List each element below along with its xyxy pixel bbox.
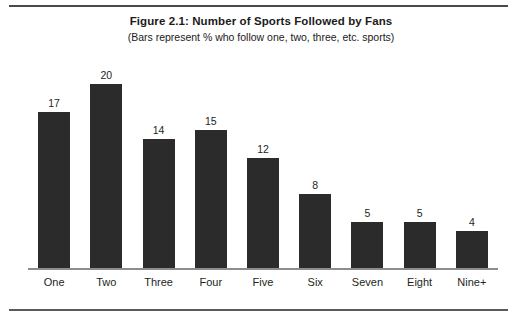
bar-value-label: 5 [341, 207, 393, 219]
category-label: Eight [394, 276, 446, 288]
bar-rect [456, 231, 488, 268]
bar-rect [90, 84, 122, 268]
bar-slot: 5 [394, 58, 446, 268]
category-label: One [28, 276, 80, 288]
bar-series: 17201415128554 [28, 58, 498, 268]
bottom-divider-rule [9, 309, 508, 311]
bar-rect [195, 130, 227, 268]
bar-rect [299, 194, 331, 268]
category-label: Seven [341, 276, 393, 288]
category-label: Four [185, 276, 237, 288]
top-divider-rule [9, 5, 508, 7]
bar-value-label: 17 [28, 97, 80, 109]
bar-value-label: 5 [394, 207, 446, 219]
bar-slot: 17 [28, 58, 80, 268]
title-block: Figure 2.1: Number of Sports Followed by… [0, 14, 522, 45]
x-axis-line [28, 268, 498, 270]
bar-value-label: 4 [446, 216, 498, 228]
bar-rect [404, 222, 436, 268]
category-label: Two [80, 276, 132, 288]
bar-value-label: 15 [185, 115, 237, 127]
bar-rect [351, 222, 383, 268]
bar-value-label: 14 [132, 124, 184, 136]
bar-slot: 15 [185, 58, 237, 268]
bar-slot: 5 [341, 58, 393, 268]
bar-slot: 8 [289, 58, 341, 268]
bar-value-label: 8 [289, 179, 341, 191]
bar-value-label: 20 [80, 69, 132, 81]
bar-rect [38, 112, 70, 268]
figure-title: Figure 2.1: Number of Sports Followed by… [0, 14, 522, 29]
bar-slot: 14 [132, 58, 184, 268]
bar-rect [247, 158, 279, 268]
bar-slot: 4 [446, 58, 498, 268]
category-label: Five [237, 276, 289, 288]
category-label: Nine+ [446, 276, 498, 288]
category-label: Three [132, 276, 184, 288]
figure-container: Figure 2.1: Number of Sports Followed by… [0, 0, 522, 320]
plot-area: 17201415128554 [28, 58, 498, 270]
bar-slot: 12 [237, 58, 289, 268]
bar-slot: 20 [80, 58, 132, 268]
bar-value-label: 12 [237, 143, 289, 155]
bar-rect [143, 139, 175, 268]
x-axis-category-labels: OneTwoThreeFourFiveSixSevenEightNine+ [28, 276, 498, 288]
category-label: Six [289, 276, 341, 288]
figure-subtitle: (Bars represent % who follow one, two, t… [0, 30, 522, 45]
